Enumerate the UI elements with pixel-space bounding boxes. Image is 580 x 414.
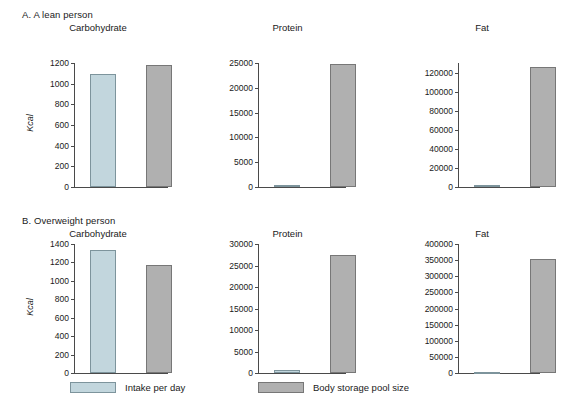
y-tick-label: 15000 <box>229 304 253 314</box>
y-tick-mark <box>255 266 258 267</box>
y-tick-label: 0 <box>64 182 69 192</box>
bar-intake <box>274 185 300 187</box>
plot-area: 020040060080010001200Kcal <box>18 22 178 194</box>
y-tick-mark <box>71 125 74 126</box>
y-tick-label: 800 <box>55 99 69 109</box>
y-tick-mark <box>255 287 258 288</box>
chart-panel-a-fat: Fat020000400006000080000100000120000 <box>392 22 572 194</box>
legend-label-storage: Body storage pool size <box>313 382 409 393</box>
y-tick-mark <box>455 73 458 74</box>
y-tick-mark <box>455 341 458 342</box>
y-tick-label: 300000 <box>425 271 453 281</box>
y-tick-label: 250000 <box>425 287 453 297</box>
y-tick-label: 1000 <box>50 276 69 286</box>
legend: Intake per day Body storage pool size <box>0 382 580 404</box>
legend-item-intake: Intake per day <box>70 382 185 393</box>
chart-panel-b-carbohydrate: Carbohydrate0200400600800100012001400Kca… <box>18 228 178 378</box>
plot-area: 020000400006000080000100000120000 <box>392 22 572 194</box>
chart-panel-a-protein: Protein0500010000150002000025000 <box>200 22 375 194</box>
y-tick-label: 20000 <box>429 163 453 173</box>
y-tick-label: 600 <box>55 313 69 323</box>
panel-a-label: A. A lean person <box>22 9 93 20</box>
legend-swatch-intake <box>70 382 116 393</box>
chart-panel-a-carbohydrate: Carbohydrate020040060080010001200Kcal <box>18 22 178 194</box>
legend-label-intake: Intake per day <box>125 382 185 393</box>
y-tick-label: 10000 <box>229 132 253 142</box>
y-tick-mark <box>71 318 74 319</box>
y-tick-mark <box>255 162 258 163</box>
y-tick-label: 600 <box>55 120 69 130</box>
y-tick-label: 200 <box>55 161 69 171</box>
figure-macronutrient-balance: A. A lean person B. Overweight person Ca… <box>0 0 580 414</box>
y-axis-line <box>258 63 259 187</box>
y-tick-label: 20000 <box>229 83 253 93</box>
y-tick-mark <box>455 373 458 374</box>
y-tick-label: 1200 <box>50 257 69 267</box>
x-axis-line <box>258 187 346 188</box>
chart-panel-b-fat: Fat0500001000001500002000002500003000003… <box>392 228 572 378</box>
y-tick-mark <box>255 330 258 331</box>
bar-storage <box>530 67 556 187</box>
y-tick-label: 400000 <box>425 239 453 249</box>
y-tick-label: 1200 <box>50 58 69 68</box>
y-axis-line <box>458 63 459 187</box>
y-tick-mark <box>255 373 258 374</box>
y-tick-mark <box>71 166 74 167</box>
bar-intake <box>90 74 116 187</box>
x-axis-line <box>458 187 540 188</box>
legend-swatch-storage <box>258 382 304 393</box>
y-tick-mark <box>455 325 458 326</box>
bar-storage <box>330 64 356 187</box>
y-tick-mark <box>455 260 458 261</box>
y-tick-label: 100000 <box>425 336 453 346</box>
y-tick-mark <box>71 84 74 85</box>
chart-panel-b-protein: Protein050001000015000200002500030000 <box>200 228 375 378</box>
plot-area: 0200400600800100012001400Kcal <box>18 228 178 378</box>
y-axis-title: Kcal <box>25 287 35 327</box>
bar-intake <box>90 250 116 373</box>
y-tick-mark <box>71 104 74 105</box>
y-tick-label: 50000 <box>429 352 453 362</box>
y-tick-label: 200000 <box>425 304 453 314</box>
y-axis-line <box>458 244 459 373</box>
y-tick-mark <box>71 244 74 245</box>
y-tick-label: 60000 <box>429 125 453 135</box>
y-tick-mark <box>455 111 458 112</box>
y-tick-mark <box>71 355 74 356</box>
x-axis-line <box>74 187 168 188</box>
bar-intake <box>474 185 500 187</box>
x-axis-line <box>74 373 168 374</box>
y-tick-label: 10000 <box>229 325 253 335</box>
y-tick-mark <box>455 309 458 310</box>
panel-b-label: B. Overweight person <box>22 215 115 226</box>
y-tick-mark <box>255 244 258 245</box>
y-tick-mark <box>255 137 258 138</box>
y-tick-label: 20000 <box>229 282 253 292</box>
y-tick-label: 1000 <box>50 79 69 89</box>
y-axis-title: Kcal <box>25 103 35 143</box>
y-tick-label: 0 <box>248 368 253 378</box>
y-tick-label: 5000 <box>234 157 253 167</box>
y-tick-label: 80000 <box>429 106 453 116</box>
bar-storage <box>146 265 172 373</box>
x-axis-line <box>258 373 346 374</box>
y-tick-label: 400 <box>55 141 69 151</box>
y-axis-line <box>258 244 259 373</box>
y-tick-label: 0 <box>448 368 453 378</box>
y-tick-label: 100000 <box>425 87 453 97</box>
y-axis-line <box>74 63 75 187</box>
y-axis-line <box>74 244 75 373</box>
y-tick-mark <box>455 168 458 169</box>
y-tick-mark <box>255 63 258 64</box>
y-tick-label: 5000 <box>234 347 253 357</box>
y-tick-mark <box>455 292 458 293</box>
y-tick-mark <box>455 187 458 188</box>
y-tick-mark <box>71 299 74 300</box>
legend-item-storage: Body storage pool size <box>258 382 409 393</box>
bar-storage <box>530 259 556 373</box>
y-tick-mark <box>71 146 74 147</box>
y-tick-label: 400 <box>55 331 69 341</box>
y-tick-mark <box>71 281 74 282</box>
y-tick-mark <box>455 357 458 358</box>
bar-storage <box>146 65 172 187</box>
